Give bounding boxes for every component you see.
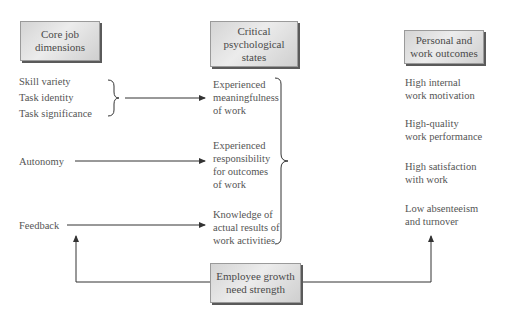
- dimension-task-significance: Task significance: [19, 107, 92, 120]
- arrow-moderator-right: [301, 236, 431, 282]
- dimension-task-identity: Task identity: [19, 91, 73, 104]
- state-knowledge: Knowledge of actual results of work acti…: [213, 208, 279, 247]
- critical-states-header: Critical psychological states: [210, 21, 298, 67]
- dimension-autonomy: Autonomy: [19, 155, 64, 168]
- growth-need-strength-box: Employee growth need strength: [210, 263, 301, 303]
- outcomes-header: Personal and work outcomes: [404, 30, 484, 64]
- core-dimensions-header: Core job dimensions: [20, 21, 100, 61]
- dimension-feedback: Feedback: [19, 219, 59, 232]
- outcome-performance: High-quality work performance: [405, 117, 482, 143]
- state-meaningfulness: Experienced meaningfulness of work: [213, 78, 279, 117]
- state-responsibility: Experienced responsibility for outcomes …: [213, 139, 270, 191]
- outcome-motivation: High internal work motivation: [405, 76, 475, 102]
- arrow-moderator-left: [76, 236, 210, 282]
- dimension-skill-variety: Skill variety: [19, 75, 71, 88]
- outcome-satisfaction: High satisfaction with work: [405, 160, 476, 186]
- outcome-absenteeism: Low absenteeism and turnover: [405, 202, 478, 228]
- small-brace-icon: [108, 80, 119, 116]
